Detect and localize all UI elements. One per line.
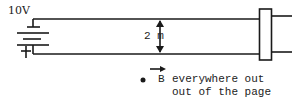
circuit-diagram: 10V 2 m B everywhere out out of the page bbox=[0, 0, 302, 103]
battery-voltage-label: 10V bbox=[8, 4, 30, 17]
field-dot bbox=[141, 78, 146, 83]
separation-label: 2 m bbox=[144, 30, 164, 42]
field-symbol: B bbox=[158, 73, 165, 85]
field-description-line1: everywhere out bbox=[172, 73, 264, 85]
sliding-bar bbox=[260, 9, 272, 60]
field-description-line2: out of the page bbox=[172, 86, 271, 98]
